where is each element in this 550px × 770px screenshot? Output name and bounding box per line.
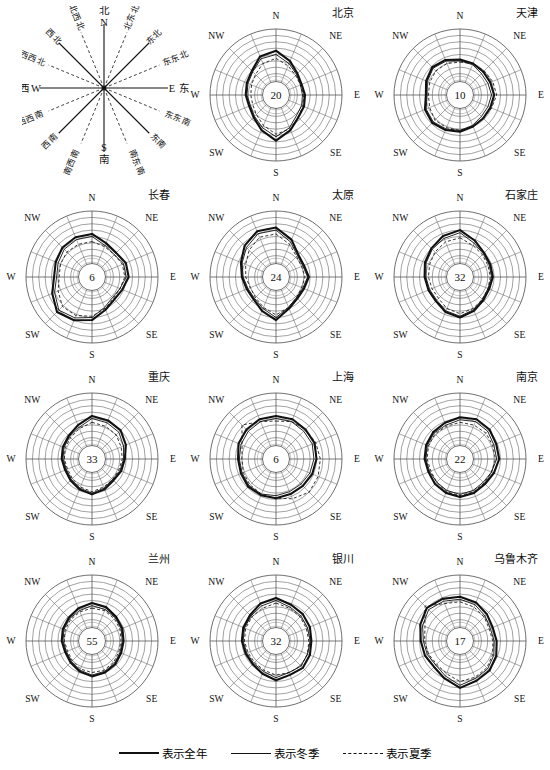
axis-label-se: SE (146, 329, 157, 340)
axis-label-e: E (354, 635, 360, 646)
axis-label-sw: SW (209, 147, 224, 158)
axis-label-ne: NE (329, 394, 342, 405)
calm-center-value: 6 (89, 271, 95, 283)
axis-label-s: S (273, 349, 278, 360)
axis-label-s: S (273, 531, 278, 542)
axis-label-ne: NE (145, 394, 158, 405)
axis-label-ne: NE (329, 576, 342, 587)
axis-label-w: W (190, 635, 200, 646)
axis-label-ne: NE (513, 394, 526, 405)
wind-rose-svg: 6NSWENESESWNW上海 (186, 366, 366, 546)
axis-label-n: N (89, 374, 96, 385)
axis-label-n: N (273, 374, 280, 385)
axis-label-s: S (89, 349, 94, 360)
axis-label-sw: SW (25, 511, 40, 522)
wind-rose-svg: 32NSWENESESWNW石家庄 (370, 184, 550, 364)
axis-label-w: W (374, 635, 384, 646)
city-title: 兰州 (148, 553, 170, 565)
chart-legend: 表示全年 表示冬季 表示夏季 (0, 738, 550, 768)
wind-rose-chart-6: 6NSWENESESWNW上海 (186, 366, 369, 548)
wind-rose-svg: 24NSWENESESWNW太原 (186, 184, 366, 364)
axis-label-s: S (457, 531, 462, 542)
calm-center-value: 33 (87, 453, 99, 465)
axis-label-sw: SW (25, 329, 40, 340)
axis-label-se: SE (146, 511, 157, 522)
calm-center-value: 10 (455, 89, 467, 101)
axis-label-e: E (538, 635, 544, 646)
axis-label-s: S (457, 349, 462, 360)
city-title: 石家庄 (505, 188, 538, 201)
axis-label-nw: NW (24, 394, 41, 405)
wind-rose-chart-10: 17NSWENESESWNW乌鲁木齐 (370, 548, 550, 730)
axis-label-se: SE (330, 147, 341, 158)
axis-label-nw: NW (392, 576, 409, 587)
axis-label-w: W (6, 453, 16, 464)
wind-rose-svg: 55NSWENESESWNW兰州 (2, 548, 182, 728)
wind-rose-svg: 32NSWENESESWNW银川 (186, 548, 366, 728)
legend-item-winter: 表示冬季 (231, 745, 319, 761)
legend-label-winter: 表示冬季 (274, 745, 319, 761)
axis-label-se: SE (514, 147, 525, 158)
axis-label-e: E (170, 635, 176, 646)
wind-rose-chart-3: 24NSWENESESWNW太原 (186, 184, 369, 366)
axis-label-n: N (273, 10, 280, 21)
axis-label-n: N (89, 556, 96, 567)
axis-label-sw: SW (393, 693, 408, 704)
axis-label-se: SE (330, 511, 341, 522)
city-title: 太原 (332, 189, 354, 201)
wind-rose-svg: 22NSWENESESWNW南京 (370, 366, 550, 546)
axis-label-e: E (538, 453, 544, 464)
axis-label-ne: NE (513, 576, 526, 587)
axis-label-e: E (170, 271, 176, 282)
axis-label-sw: SW (209, 511, 224, 522)
axis-label-s: S (457, 167, 462, 178)
axis-label-se: SE (330, 693, 341, 704)
city-title: 南京 (516, 370, 538, 383)
axis-label-n: N (273, 556, 280, 567)
axis-label-w: W (190, 89, 200, 100)
axis-label-n: N (457, 10, 464, 21)
calm-center-value: 32 (271, 635, 282, 647)
legend-item-summer: 表示夏季 (343, 745, 431, 761)
wind-rose-chart-4: 32NSWENESESWNW石家庄 (370, 184, 550, 366)
city-title: 银川 (332, 552, 354, 565)
city-title: 上海 (332, 370, 354, 383)
axis-label-n: N (457, 374, 464, 385)
axis-label-ne: NE (145, 576, 158, 587)
axis-label-sw: SW (209, 329, 224, 340)
city-title: 天津 (516, 7, 538, 19)
calm-center-value: 22 (455, 453, 466, 465)
wind-rose-chart-7: 22NSWENESESWNW南京 (370, 366, 550, 548)
axis-label-e: E (538, 89, 544, 100)
axis-label-nw: NW (392, 394, 409, 405)
axis-label-sw: SW (393, 329, 408, 340)
wind-rose-svg: 33NSWENESESWNW重庆 (2, 366, 182, 546)
axis-label-nw: NW (208, 30, 225, 41)
axis-label-sw: SW (393, 511, 408, 522)
wind-rose-chart-2: 6NSWENESESWNW长春 (2, 184, 185, 366)
legend-label-annual: 表示全年 (162, 745, 207, 761)
city-title: 重庆 (148, 370, 170, 383)
legend-item-annual: 表示全年 (119, 745, 207, 761)
wind-rose-chart-5: 33NSWENESESWNW重庆 (2, 366, 185, 548)
legend-swatch-summer-icon (343, 753, 383, 754)
axis-label-w: W (374, 453, 384, 464)
axis-label-ne: NE (329, 212, 342, 223)
axis-label-nw: NW (208, 394, 225, 405)
axis-label-s: S (273, 167, 278, 178)
axis-label-w: W (374, 89, 384, 100)
axis-label-nw: NW (392, 212, 409, 223)
axis-label-sw: SW (25, 693, 40, 704)
wind-rose-svg: 10NSWENESESWNW天津 (370, 2, 550, 182)
wind-rose-svg: 20NSWENESESWNW北京 (186, 2, 366, 182)
axis-label-e: E (538, 271, 544, 282)
axis-label-nw: NW (24, 212, 41, 223)
wind-rose-svg: 6NSWENESESWNW长春 (2, 184, 182, 364)
axis-label-w: W (6, 635, 16, 646)
wind-rose-chart-9: 32NSWENESESWNW银川 (186, 548, 369, 730)
axis-label-se: SE (514, 693, 525, 704)
wind-rose-chart-0: 20NSWENESESWNW北京 (186, 2, 369, 184)
axis-label-s: S (457, 713, 462, 724)
wind-rose-figure-sheet: 北NS南西WE东北东北东北东东北东东南东南南东南南西南西南西西南西西北西北北西北… (0, 0, 550, 770)
axis-label-w: W (190, 453, 200, 464)
